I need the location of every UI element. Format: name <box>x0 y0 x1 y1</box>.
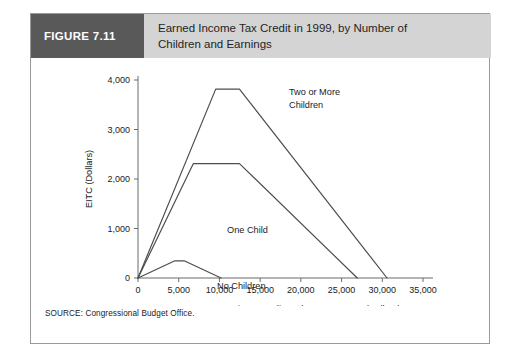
chart-axes: 01,0002,0003,0004,00005,00010,00015,0002… <box>107 75 436 295</box>
figure-number-label: FIGURE 7.11 <box>44 30 116 42</box>
eitc-line-chart: 01,0002,0003,0004,00005,00010,00015,0002… <box>31 58 491 306</box>
x-tick-label: 5,000 <box>167 285 190 295</box>
series-line-1 <box>138 164 357 278</box>
figure-title-line-1: Earned Income Tax Credit in 1999, by Num… <box>158 20 479 36</box>
chart-series-group <box>138 89 387 278</box>
x-tick-label: 30,000 <box>369 285 397 295</box>
figure-number-block: FIGURE 7.11 <box>31 14 144 58</box>
source-note: SOURCE: Congressional Budget Office. <box>45 309 195 318</box>
y-tick-label: 0 <box>125 273 130 283</box>
y-tick-label: 4,000 <box>107 75 130 85</box>
y-axis-title: EITC (Dollars) <box>84 150 94 208</box>
x-tick-label: 25,000 <box>328 285 356 295</box>
series-annotation-0: Two or More <box>289 87 340 97</box>
y-tick-label: 1,000 <box>107 224 130 234</box>
x-tick-label: 20,000 <box>287 285 315 295</box>
figure-title-block: Earned Income Tax Credit in 1999, by Num… <box>144 14 491 58</box>
x-tick-label: 0 <box>135 285 140 295</box>
y-tick-label: 2,000 <box>107 174 130 184</box>
figure-container: FIGURE 7.11 Earned Income Tax Credit in … <box>30 13 490 344</box>
x-axis-title: Taxpayer's Earnings or Adjusted Gross In… <box>173 304 401 306</box>
series-annotation-1: One Child <box>227 225 268 235</box>
figure-title-line-2: Children and Earnings <box>158 36 479 52</box>
x-tick-label: 35,000 <box>409 285 437 295</box>
series-annotation-0-line2: Children <box>289 100 323 110</box>
figure-header: FIGURE 7.11 Earned Income Tax Credit in … <box>31 14 491 58</box>
series-annotation-2: No Children <box>217 281 266 291</box>
series-line-2 <box>138 261 221 278</box>
series-line-0 <box>138 89 387 278</box>
chart-plot-area: 01,0002,0003,0004,00005,00010,00015,0002… <box>31 58 491 306</box>
y-tick-label: 3,000 <box>107 125 130 135</box>
